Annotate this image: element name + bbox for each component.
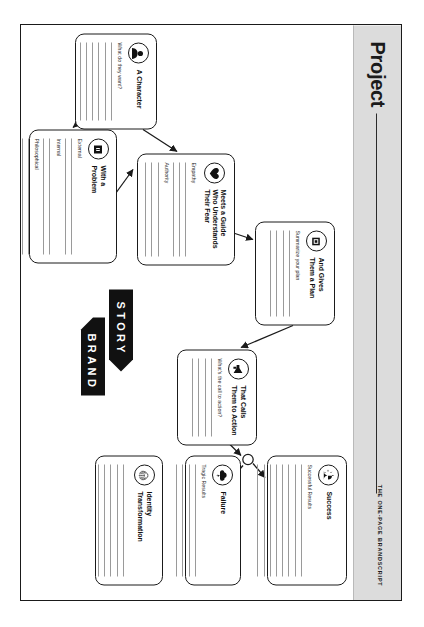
field-label: External [77, 138, 83, 254]
field-label: Authority [164, 162, 170, 256]
write-lines[interactable] [192, 358, 212, 436]
card-title: Failure [218, 491, 226, 514]
field-label: Philosophical [34, 138, 40, 254]
write-line[interactable] [105, 42, 106, 120]
person-icon [128, 42, 149, 63]
card-calls-them-to-action[interactable]: That Calls Them to Action What's the cal… [177, 349, 257, 445]
write-line[interactable] [276, 464, 277, 576]
field-call-to-action[interactable]: What's the call to action? [192, 358, 223, 436]
write-line[interactable] [43, 138, 44, 254]
write-line[interactable] [264, 464, 265, 576]
write-line[interactable] [151, 162, 152, 256]
card-header: That Calls Them to Action [228, 358, 249, 436]
write-line[interactable] [289, 230, 290, 316]
card-title: With a Problem [90, 165, 106, 193]
write-lines[interactable] [80, 42, 112, 120]
write-line[interactable] [270, 464, 271, 576]
field-what-do-they-want[interactable]: What do they want? [80, 42, 123, 120]
write-line[interactable] [205, 358, 206, 436]
write-line[interactable] [173, 162, 174, 256]
write-line[interactable] [110, 464, 111, 576]
write-lines[interactable] [258, 464, 302, 576]
field-label: Tragic Results [201, 464, 207, 576]
write-line[interactable] [104, 464, 105, 576]
field-empathy[interactable]: Empathy [173, 162, 198, 256]
field-authority[interactable]: Authority [145, 162, 170, 256]
card-body: What do they want? [80, 42, 123, 120]
card-body: Empathy Authority [144, 162, 197, 256]
card-identity-transformation[interactable]: Identity Transformation [95, 455, 163, 585]
write-line[interactable] [92, 42, 93, 120]
field-external[interactable]: External [65, 138, 83, 254]
write-lines[interactable] [270, 230, 290, 316]
card-body: External Internal Philosophical [22, 138, 83, 254]
write-lines[interactable] [22, 138, 29, 254]
write-line[interactable] [301, 464, 302, 576]
write-line[interactable] [86, 42, 87, 120]
write-line[interactable] [182, 464, 183, 576]
heart-hands-icon [204, 162, 225, 183]
write-line[interactable] [295, 464, 296, 576]
card-gives-them-a-plan[interactable]: And Gives Them a Plan Summarize your pla… [255, 221, 335, 325]
write-line[interactable] [288, 464, 289, 576]
write-line[interactable] [211, 358, 212, 436]
write-line[interactable] [192, 358, 193, 436]
field-internal[interactable]: Internal [43, 138, 61, 254]
card-title: A Character [134, 69, 142, 108]
write-lines[interactable] [43, 138, 50, 254]
write-line[interactable] [198, 358, 199, 436]
write-lines[interactable] [98, 464, 124, 576]
worksheet-kicker: THE ONE-PAGE BRANDSCRIPT [377, 484, 383, 586]
write-line[interactable] [185, 162, 186, 256]
write-line[interactable] [276, 230, 277, 316]
card-with-a-problem[interactable]: With a Problem External Internal Philoso… [29, 129, 117, 263]
write-line[interactable] [123, 464, 124, 576]
write-line[interactable] [176, 464, 177, 576]
card-a-character[interactable]: A Character What do they want? [75, 33, 157, 129]
villain-icon [88, 138, 109, 159]
field-identity-lines[interactable] [98, 464, 129, 576]
field-tragic-results[interactable]: Tragic Results [176, 464, 207, 576]
write-line[interactable] [195, 464, 196, 576]
worksheet-canvas: Project THE ONE-PAGE BRANDSCRIPT [21, 25, 401, 600]
write-line[interactable] [98, 464, 99, 576]
field-summarize-your-plan[interactable]: Summarize your plan [270, 230, 301, 316]
write-line[interactable] [65, 138, 66, 254]
field-successful-results[interactable]: Successful Results [258, 464, 314, 576]
map-icon [306, 230, 327, 251]
write-line[interactable] [111, 42, 112, 120]
write-line[interactable] [71, 138, 72, 254]
write-line[interactable] [98, 42, 99, 120]
write-line[interactable] [49, 138, 50, 254]
write-lines[interactable] [176, 464, 196, 576]
write-line[interactable] [22, 138, 23, 254]
write-lines[interactable] [65, 138, 72, 254]
storm-cloud-icon [212, 464, 233, 485]
write-line[interactable] [145, 162, 146, 256]
write-line[interactable] [117, 464, 118, 576]
write-lines[interactable] [173, 162, 186, 256]
write-line[interactable] [283, 230, 284, 316]
storybrand-logo: STORY BRAND [73, 287, 139, 399]
field-label: Summarize your plan [295, 230, 301, 316]
write-line[interactable] [179, 162, 180, 256]
write-line[interactable] [282, 464, 283, 576]
card-meets-a-guide[interactable]: Meets a Guide Who Understands Their Fear… [137, 153, 235, 265]
write-line[interactable] [158, 162, 159, 256]
sunrise-icon [318, 464, 339, 485]
card-title: Success [324, 491, 332, 519]
card-body: Tragic Results [176, 464, 207, 576]
card-success[interactable]: Success Successful Results [267, 455, 347, 585]
card-failure[interactable]: Failure Tragic Results [185, 455, 241, 585]
card-header: Success [318, 464, 339, 576]
write-line[interactable] [270, 230, 271, 316]
write-lines[interactable] [145, 162, 158, 256]
field-philosophical[interactable]: Philosophical [22, 138, 40, 254]
write-line[interactable] [189, 464, 190, 576]
fingerprint-icon [134, 464, 155, 485]
card-body: Successful Results [258, 464, 314, 576]
card-header: With a Problem [88, 138, 109, 254]
write-line[interactable] [28, 138, 29, 254]
write-line[interactable] [258, 464, 259, 576]
write-line[interactable] [80, 42, 81, 120]
